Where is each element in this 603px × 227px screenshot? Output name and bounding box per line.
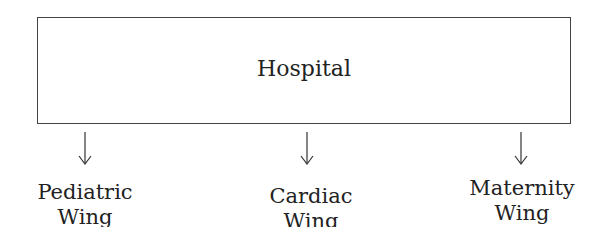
arrow-down-icon [511,130,531,166]
node-line-2: Wing [452,201,592,226]
node-line-1: Cardiac [241,184,381,209]
hospital-box: Hospital [37,17,571,124]
node-line-1: Pediatric [15,180,155,205]
pediatric-wing-node: Pediatric Wing [15,180,155,227]
cardiac-wing-node: Cardiac Wing [241,184,381,227]
arrow-down-icon [75,130,95,166]
arrow-down-icon [297,130,317,166]
hospital-label: Hospital [38,56,570,81]
maternity-wing-node: Maternity Wing [452,176,592,226]
node-line-2: Wing [15,205,155,227]
node-line-2: Wing [241,209,381,227]
node-line-1: Maternity [452,176,592,201]
